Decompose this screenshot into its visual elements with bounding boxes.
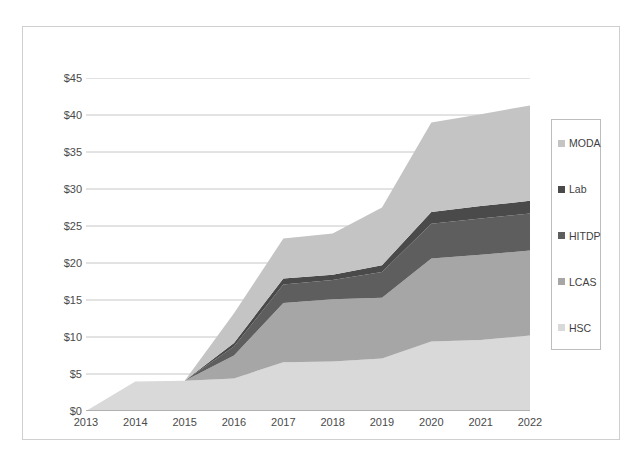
legend-item-hitdp[interactable]: HITDP [558, 230, 601, 242]
chart-figure: Annual Budget (RY$M) $0$5$10$15$20$25$30… [0, 0, 642, 462]
stacked-area-plot [86, 78, 530, 411]
plot-area [86, 78, 530, 411]
legend-label: LCAS [569, 276, 596, 288]
legend-item-hsc[interactable]: HSC [558, 322, 591, 334]
x-tick-label: 2018 [310, 416, 356, 428]
legend-label: Lab [569, 183, 587, 195]
y-tick-label: $15 [42, 294, 82, 306]
y-tick-label: $35 [42, 146, 82, 158]
legend-item-moda[interactable]: MODA [558, 137, 601, 149]
legend-label: HITDP [569, 230, 601, 242]
legend-swatch-icon [558, 278, 565, 285]
legend-label: MODA [569, 137, 601, 149]
x-tick-label: 2016 [211, 416, 257, 428]
x-axis-tick-labels: 2013201420152016201720182019202020212022 [86, 416, 530, 440]
x-tick-label: 2013 [63, 416, 109, 428]
y-tick-label: $5 [42, 368, 82, 380]
y-tick-label: $25 [42, 220, 82, 232]
y-tick-label: $40 [42, 109, 82, 121]
x-tick-label: 2017 [260, 416, 306, 428]
y-tick-label: $20 [42, 257, 82, 269]
x-tick-label: 2015 [162, 416, 208, 428]
x-tick-label: 2019 [359, 416, 405, 428]
y-tick-label: $45 [42, 72, 82, 84]
y-tick-label: $30 [42, 183, 82, 195]
legend-item-lab[interactable]: Lab [558, 183, 587, 195]
x-tick-label: 2022 [507, 416, 553, 428]
legend-item-lcas[interactable]: LCAS [558, 276, 596, 288]
legend-swatch-icon [558, 186, 565, 193]
x-tick-label: 2014 [112, 416, 158, 428]
y-tick-label: $10 [42, 331, 82, 343]
x-tick-label: 2021 [458, 416, 504, 428]
x-tick-label: 2020 [408, 416, 454, 428]
legend-swatch-icon [558, 324, 565, 331]
legend-label: HSC [569, 322, 591, 334]
y-axis-tick-labels: $0$5$10$15$20$25$30$35$40$45 [38, 78, 82, 411]
legend-swatch-icon [558, 232, 565, 239]
legend-swatch-icon [558, 140, 565, 147]
chart-legend: MODALabHITDPLCASHSC [551, 119, 601, 350]
